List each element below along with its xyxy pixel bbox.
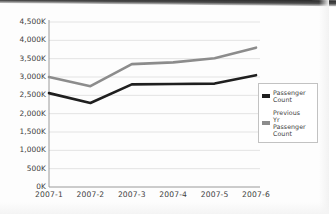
x-axis-tick-label: 2007-5 [192,190,238,199]
scan-artifact-bottom-edge [0,202,329,214]
legend-item: Previous Yr Passenger Count [262,109,314,137]
legend-item-label: Previous Yr Passenger Count [273,109,306,137]
series-line [49,75,256,103]
chart-legend: Passenger CountPrevious Yr Passenger Cou… [258,83,318,143]
x-axis-tick-label: 2007-3 [109,190,155,199]
legend-swatch-icon [262,94,270,98]
x-axis-tick-label: 2007-1 [26,190,72,199]
legend-item-label: Passenger Count [273,89,306,103]
legend-item: Passenger Count [262,89,314,103]
legend-swatch-icon [262,121,270,125]
x-axis-tick-label: 2007-4 [150,190,196,199]
x-axis-tick-label: 2007-6 [233,190,279,199]
x-axis-tick-label: 2007-2 [67,190,113,199]
scan-artifact-right-edge [319,0,329,214]
